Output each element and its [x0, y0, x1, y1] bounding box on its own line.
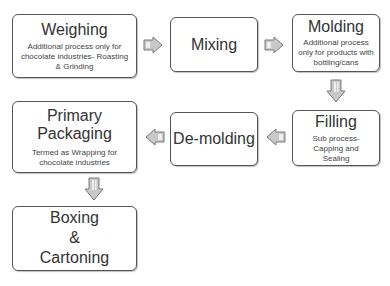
arrow-down-icon — [326, 79, 346, 103]
step-note: Termed as Wrapping for chocolate industr… — [25, 148, 125, 168]
step-note: Additional process only for chocolate in… — [19, 42, 131, 72]
step-demolding: De-molding — [170, 112, 258, 166]
step-filling: Filling Sub process- Capping and Sealing — [292, 110, 380, 166]
step-title: Filling — [315, 113, 357, 131]
step-title: De-molding — [173, 130, 255, 148]
step-note: Sub process- Capping and Sealing — [299, 134, 373, 164]
step-title: Primary Packaging — [30, 107, 120, 143]
step-title-line: & — [69, 229, 80, 247]
step-title-line: Boxing — [50, 209, 99, 227]
step-title: Mixing — [191, 36, 237, 54]
step-title-line: Cartoning — [40, 249, 109, 267]
step-title: Molding — [308, 18, 364, 36]
arrow-down-icon — [84, 177, 104, 201]
step-mixing: Mixing — [170, 17, 258, 72]
arrow-right-icon — [264, 36, 284, 54]
step-weighing: Weighing Additional process only for cho… — [12, 14, 137, 78]
arrow-left-icon — [266, 128, 286, 146]
step-title: Weighing — [41, 21, 107, 39]
arrow-right-icon — [143, 36, 163, 54]
arrow-left-icon — [145, 128, 165, 146]
step-primary-packaging: Primary Packaging Termed as Wrapping for… — [12, 101, 137, 173]
step-note: Additional process only for products wit… — [296, 38, 376, 68]
step-molding: Molding Additional process only for prod… — [292, 14, 380, 72]
step-boxing-cartoning: Boxing & Cartoning — [12, 206, 137, 271]
